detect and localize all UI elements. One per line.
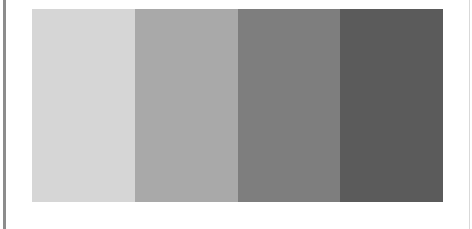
gray-swatch-strip [32,9,443,202]
right-border-line [469,0,470,229]
swatch-medium-dark-gray [238,9,341,202]
left-border-line [3,0,6,229]
swatch-dark-gray [340,9,443,202]
swatch-light-gray [32,9,135,202]
swatch-medium-light-gray [135,9,238,202]
